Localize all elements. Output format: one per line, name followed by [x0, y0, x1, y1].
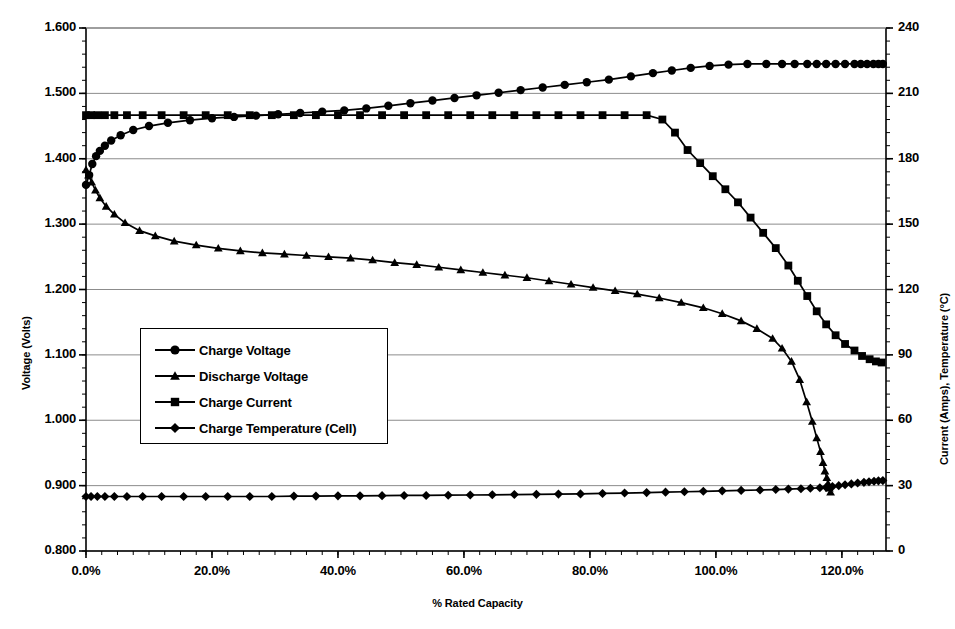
x-axis-tick: 0.0%	[36, 563, 136, 578]
legend-item-label: Discharge Voltage	[199, 369, 308, 384]
series-charge-voltage	[82, 60, 887, 189]
y-axis-right-tick: 30	[898, 477, 938, 492]
y-axis-left-tick: 1.600	[12, 19, 76, 34]
y-axis-left-tick: 1.500	[12, 84, 76, 99]
y-axis-left-tick: 1.000	[12, 411, 76, 426]
x-axis-tick: 40.0%	[288, 563, 388, 578]
y-axis-left-tick: 0.900	[12, 477, 76, 492]
series-charge-temperature-cell	[81, 476, 887, 501]
y-axis-left-tick: 0.800	[12, 542, 76, 557]
legend-item-discharge-voltage[interactable]: Discharge Voltage	[153, 363, 308, 389]
legend-item-label: Charge Current	[199, 395, 292, 410]
chart-plot-svg	[0, 0, 955, 629]
y-axis-left-title: Voltage (Volts)	[20, 316, 32, 390]
legend-item-charge-temperature-cell[interactable]: Charge Temperature (Cell)	[153, 415, 356, 441]
y-axis-right-tick: 0	[898, 542, 938, 557]
chart-container: 0.8000.9001.0001.1001.2001.3001.4001.500…	[0, 0, 955, 629]
y-axis-right-tick: 180	[898, 150, 938, 165]
y-axis-right-tick: 90	[898, 346, 938, 361]
y-axis-left-tick: 1.300	[12, 215, 76, 230]
x-axis-tick: 100.0%	[666, 563, 766, 578]
x-axis-tick: 60.0%	[414, 563, 514, 578]
axis-ticks	[79, 28, 893, 558]
y-axis-right-tick: 150	[898, 215, 938, 230]
y-axis-right-tick: 120	[898, 281, 938, 296]
legend-marker-circle-icon	[153, 340, 197, 360]
x-axis-tick: 120.0%	[792, 563, 892, 578]
y-axis-right-tick: 240	[898, 19, 938, 34]
legend-item-label: Charge Voltage	[199, 343, 291, 358]
legend-marker-square-icon	[153, 392, 197, 412]
y-axis-right-tick: 60	[898, 411, 938, 426]
x-axis-tick: 20.0%	[162, 563, 262, 578]
grid-lines	[86, 28, 886, 551]
x-axis-tick: 80.0%	[540, 563, 640, 578]
legend-item-charge-voltage[interactable]: Charge Voltage	[153, 337, 291, 363]
y-axis-right-tick: 210	[898, 84, 938, 99]
y-axis-left-tick: 1.200	[12, 281, 76, 296]
legend-item-label: Charge Temperature (Cell)	[199, 421, 356, 436]
chart-legend: Charge VoltageDischarge VoltageCharge Cu…	[140, 328, 388, 444]
x-axis-title: % Rated Capacity	[0, 597, 955, 609]
y-axis-right-title: Current (Amps), Temperature (°C)	[938, 293, 950, 465]
legend-marker-triangle-icon	[153, 366, 197, 386]
legend-item-charge-current[interactable]: Charge Current	[153, 389, 292, 415]
y-axis-left-tick: 1.400	[12, 150, 76, 165]
legend-marker-diamond-icon	[153, 418, 197, 438]
